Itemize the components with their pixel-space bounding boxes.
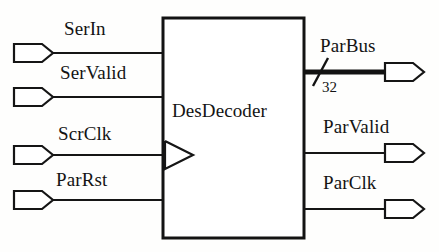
input-pin-serin[interactable]: [14, 44, 53, 62]
desdecoder-block[interactable]: [163, 18, 304, 238]
label-parrst: ParRst: [56, 170, 107, 189]
label-desdecoder: DesDecoder: [172, 101, 267, 120]
output-pin-parvalid[interactable]: [385, 144, 424, 162]
output-pin-parclk[interactable]: [385, 200, 424, 218]
block-diagram-canvas: SerIn SerValid ScrClk ParRst DesDecoder …: [0, 0, 439, 252]
label-parvalid: ParValid: [323, 117, 389, 136]
label-servalid: SerValid: [60, 63, 126, 82]
label-parclk: ParClk: [323, 173, 376, 192]
input-pin-servalid[interactable]: [14, 88, 53, 106]
label-parbus: ParBus: [320, 36, 376, 55]
output-pin-parbus[interactable]: [385, 63, 424, 81]
label-bus-width-32: 32: [322, 80, 337, 95]
input-pin-scrclk[interactable]: [14, 146, 53, 164]
label-serin: SerIn: [64, 19, 106, 38]
input-pin-parrst[interactable]: [14, 191, 53, 209]
label-scrclk: ScrClk: [58, 124, 111, 143]
